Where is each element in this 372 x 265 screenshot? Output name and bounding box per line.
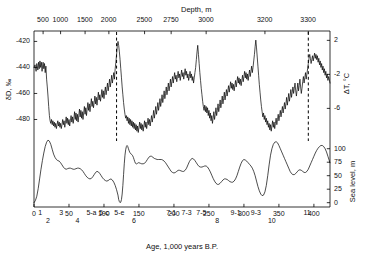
mis-stage-label: 5-c <box>99 209 109 216</box>
mis-stage-label: 9-3 <box>251 209 261 216</box>
mis-stage-label: 1 <box>38 209 42 216</box>
age-axis-title: Age, 1,000 years B.P. <box>146 242 218 251</box>
mis-stage-label: 6 <box>132 217 136 224</box>
depth-tick-label: 3300 <box>300 16 316 23</box>
mis-stage-label: 4 <box>75 217 79 224</box>
depth-tick-label: 1000 <box>53 16 69 23</box>
depth-tick-label: 2500 <box>137 16 153 23</box>
deuterium-tick-label: -440 <box>16 63 30 70</box>
depth-tick-label: 2000 <box>101 16 117 23</box>
chart-canvas <box>0 0 372 265</box>
mis-stage-label: 3 <box>59 209 63 216</box>
depth-axis-title: Depth, m <box>181 5 211 14</box>
sea-level-tick-label: 75 <box>334 158 342 165</box>
mis-stage-label: 8 <box>215 217 219 224</box>
deuterium-tick-label: -460 <box>16 89 30 96</box>
sea-level-axis-title: Sea level, m <box>348 161 357 202</box>
mis-stage-label: 5-e <box>114 209 124 216</box>
deuterium-tick-label: -420 <box>16 37 30 44</box>
age-tick-label: 150 <box>133 210 145 217</box>
sea-level-tick-label: 100 <box>334 145 346 152</box>
mis-stage-label: 7-5 <box>196 209 206 216</box>
deuterium-axis-title: δD, ‰ <box>4 79 13 100</box>
age-tick-label: 350 <box>273 210 285 217</box>
sea-level-tick-label: 50 <box>334 172 342 179</box>
depth-tick-label: 3000 <box>198 16 214 23</box>
age-tick-label: 0 <box>32 210 36 217</box>
figure-root: 50010001500200025002750300032003300Depth… <box>0 0 372 265</box>
depth-tick-label: 1500 <box>77 16 93 23</box>
mis-stage-label: 7-3 <box>182 209 192 216</box>
depth-tick-label: 500 <box>37 16 49 23</box>
mis-stage-label: 11 <box>303 209 310 216</box>
depth-tick-label: 3200 <box>257 16 273 23</box>
mis-stage-label: 7-1 <box>166 209 176 216</box>
mis-stage-label: 10 <box>268 217 276 224</box>
deuterium-tick-label: -480 <box>16 115 30 122</box>
mis-stage-label: 5-a <box>86 209 96 216</box>
mis-stage-label: 9-1 <box>231 209 241 216</box>
sea-level-tick-label: 0 <box>334 199 338 206</box>
sea-level-tick-label: 25 <box>334 185 342 192</box>
delta-t-tick-label: -2 <box>334 70 340 77</box>
delta-t-axis-title: ΔT, °C <box>342 73 351 94</box>
delta-t-tick-label: 2 <box>334 36 338 43</box>
mis-stage-label: 2 <box>46 217 50 224</box>
delta-t-tick-label: -6 <box>334 104 340 111</box>
depth-tick-label: 2750 <box>163 16 179 23</box>
age-tick-label: 50 <box>65 210 73 217</box>
